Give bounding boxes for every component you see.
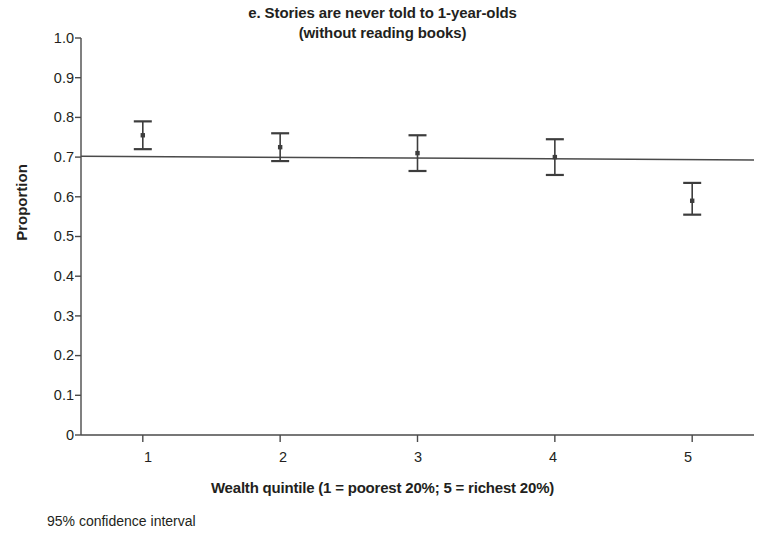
data-point-4 <box>546 139 564 175</box>
y-tick-marks <box>75 38 81 435</box>
x-tick-marks <box>143 435 692 442</box>
data-point-1 <box>134 121 152 149</box>
data-series <box>134 121 701 214</box>
plot-area <box>0 0 765 545</box>
data-point-5 <box>683 183 701 215</box>
chart-figure: e. Stories are never told to 1-year-olds… <box>0 0 765 545</box>
footnote-confidence-interval: 95% confidence interval <box>47 513 196 529</box>
data-point-3 <box>409 135 427 171</box>
